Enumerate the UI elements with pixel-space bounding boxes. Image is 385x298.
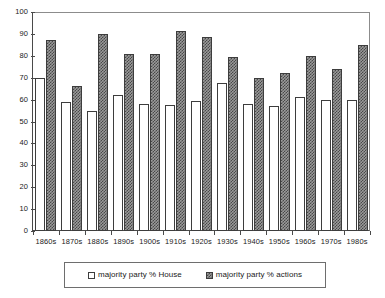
legend-swatch-house-icon	[88, 272, 95, 279]
x-axis-tick-mark	[370, 231, 371, 235]
chart-legend: majority party % Housemajority party % a…	[64, 262, 326, 288]
bar-house	[243, 104, 253, 231]
bar-actions	[202, 37, 212, 231]
y-axis-tick-label: 80	[2, 52, 28, 60]
bar-group	[35, 12, 56, 231]
bar-house	[61, 102, 71, 231]
legend-label: majority party % actions	[216, 270, 302, 280]
bar-actions	[46, 40, 56, 231]
bar-house	[191, 101, 201, 231]
y-axis-tick-label: 10	[2, 205, 28, 213]
bar-house	[165, 105, 175, 231]
bar-group	[139, 12, 160, 231]
bar-chart: 1009080706050403020100 1860s1870s1880s18…	[0, 0, 385, 298]
bar-group	[217, 12, 238, 231]
x-axis-tick-mark	[163, 231, 164, 235]
y-axis-tick-label: 30	[2, 161, 28, 169]
bar-house	[113, 95, 123, 231]
y-axis-tick-label: 90	[2, 30, 28, 38]
bar-group	[321, 12, 342, 231]
y-axis-tick-label: 50	[2, 118, 28, 126]
x-axis-tick-mark	[266, 231, 267, 235]
bar-actions	[176, 31, 186, 231]
bar-actions	[332, 69, 342, 231]
bar-actions	[150, 54, 160, 231]
y-axis-tick-label: 40	[2, 139, 28, 147]
bar-group	[87, 12, 108, 231]
bar-group	[113, 12, 134, 231]
y-axis-tick-label: 60	[2, 96, 28, 104]
bar-actions	[306, 56, 316, 231]
bar-house	[87, 111, 97, 231]
bar-house	[295, 97, 305, 231]
y-axis-tick-label: 20	[2, 183, 28, 191]
bar-group	[269, 12, 290, 231]
legend-swatch-actions-icon	[206, 272, 213, 279]
x-axis-ticks	[33, 231, 370, 236]
bar-house	[139, 104, 149, 231]
x-axis-tick-mark	[189, 231, 190, 235]
bar-actions	[228, 57, 238, 231]
y-axis-tick-label: 70	[2, 74, 28, 82]
bar-house	[269, 106, 279, 231]
x-axis-tick-mark	[59, 231, 60, 235]
x-axis-tick-mark	[137, 231, 138, 235]
x-axis-tick-label: 1980s	[340, 237, 374, 247]
bar-group	[165, 12, 186, 231]
bar-group	[347, 12, 368, 231]
bar-actions	[124, 54, 134, 231]
bar-house	[321, 100, 331, 231]
legend-entry: majority party % actions	[206, 270, 302, 280]
bar-house	[217, 83, 227, 231]
x-axis-tick-mark	[318, 231, 319, 235]
x-axis-tick-mark	[292, 231, 293, 235]
bar-house	[347, 100, 357, 231]
bar-actions	[72, 86, 82, 231]
x-axis-tick-mark	[240, 231, 241, 235]
bar-house	[35, 78, 45, 231]
bar-actions	[254, 78, 264, 231]
bar-actions	[280, 73, 290, 231]
x-axis-tick-mark	[33, 231, 34, 235]
y-axis-tick-label: 0	[2, 227, 28, 235]
x-axis-labels: 1860s1870s1880s1890s1900s1910s1920s1930s…	[33, 237, 370, 249]
y-axis-tick-label: 100	[2, 8, 28, 16]
bar-actions	[358, 45, 368, 231]
bars-container	[33, 12, 370, 231]
x-axis-tick-mark	[111, 231, 112, 235]
bar-actions	[98, 34, 108, 231]
bar-group	[295, 12, 316, 231]
bar-group	[61, 12, 82, 231]
x-axis-tick-mark	[344, 231, 345, 235]
y-axis: 1009080706050403020100	[0, 0, 32, 243]
legend-label: majority party % House	[98, 270, 182, 280]
x-axis-tick-mark	[85, 231, 86, 235]
x-axis-tick-mark	[214, 231, 215, 235]
bar-group	[243, 12, 264, 231]
legend-entry: majority party % House	[88, 270, 182, 280]
bar-group	[191, 12, 212, 231]
